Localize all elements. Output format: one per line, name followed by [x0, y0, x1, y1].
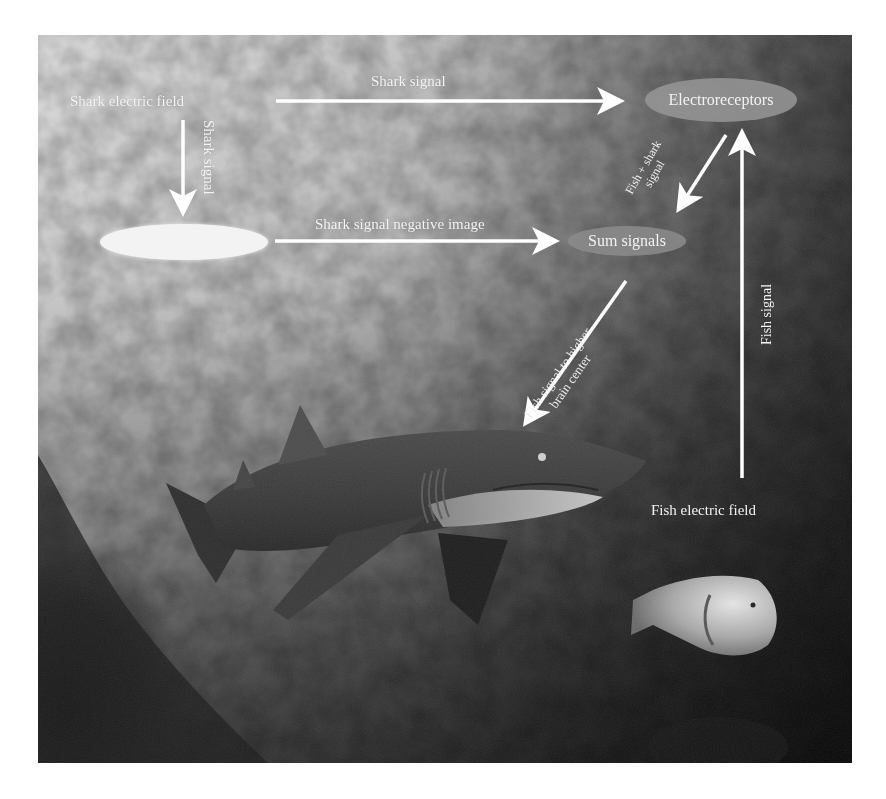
diagram-arrows [38, 35, 852, 763]
edge-label-negative-image: Shark signal negative image [315, 217, 485, 232]
electroreceptors-label: Electroreceptors [645, 92, 797, 108]
edge-label-shark-signal-vertical: Shark signal [201, 120, 216, 195]
edge-label-fish-signal: Fish signal [760, 284, 774, 345]
edge-label-shark-signal-top: Shark signal [371, 74, 446, 89]
shark-electric-field-label: Shark electric field [70, 94, 184, 109]
fish-electric-field-label: Fish electric field [651, 503, 756, 518]
arrow-electroreceptors-to-sum [680, 135, 726, 207]
diagram-figure: Electroreceptors Sum signals Shark elect… [38, 35, 852, 763]
sum-signals-label: Sum signals [568, 233, 686, 249]
negative-image-node [100, 224, 268, 260]
